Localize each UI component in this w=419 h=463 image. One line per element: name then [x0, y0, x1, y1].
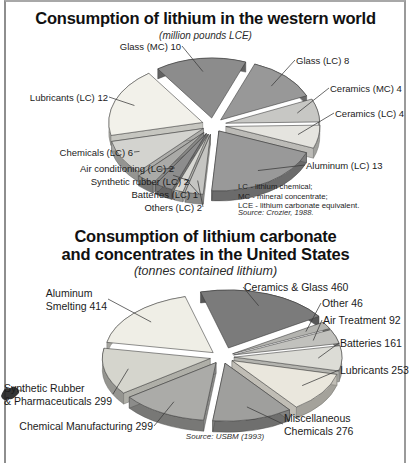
slice-label-synthetic-rubber-pharmaceuticals: Synthetic Rubber& Pharmaceuticals 299: [4, 382, 112, 407]
scanned-figure-page: Consumption of lithium in the western wo…: [0, 0, 419, 463]
slice-label-others-lc: Others (LC) 2: [144, 202, 202, 213]
slice-label-glass-mc: Glass (MC) 10: [120, 41, 181, 52]
slice-label-aluminum-lc: Aluminum (LC) 13: [306, 160, 383, 171]
chart2-title: Consumption of lithium carbonate and con…: [6, 228, 405, 263]
chart2-subtitle: (tonnes contained lithium): [6, 264, 405, 278]
slice-label-batteries-lc: Batteries (LC) 1: [131, 189, 198, 200]
slice-label-aluminum-smelting: AluminumSmelting 414: [46, 287, 107, 312]
slice-label-air-conditioning-lc: Air conditioning (LC) 2: [80, 163, 174, 174]
slice-label-miscellaneous-chemicals: MiscellaneousChemicals 276: [284, 412, 353, 437]
legend-line-lc: LC - lithium chemical;: [238, 182, 359, 192]
slice-label-ceramics-mc: Ceramics (MC) 4: [330, 83, 402, 94]
chart1-source: Source: Crozier, 1988.: [238, 208, 314, 217]
slice-label-lubricants-lc: Lubricants (LC) 12: [30, 92, 108, 103]
slice-label-chemicals-lc: Chemicals (LC) 6: [60, 147, 133, 158]
chart1-title: Consumption of lithium in the western wo…: [6, 9, 405, 28]
chart1-subtitle: (million pounds LCE): [6, 30, 405, 41]
slice-label-air-treatment: Air Treatment 92: [323, 314, 401, 327]
slice-label-ceramics-lc: Ceramics (LC) 4: [335, 108, 404, 119]
slice-label-glass-lc: Glass (LC) 8: [296, 55, 349, 66]
pie-slice-aluminum-smelting: [107, 297, 213, 353]
slice-label-synthetic-rubber-lc: Synthetic rubber (LC) 2: [91, 176, 189, 187]
slice-label-lubricants: Lubricants 253: [340, 364, 409, 377]
slice-label-other: Other 46: [322, 297, 363, 310]
chart2-title-line2: and concentrates in the United States: [6, 246, 405, 264]
abbreviation-legend: LC - lithium chemical; MC - mineral conc…: [238, 182, 359, 211]
slice-label-batteries: Batteries 161: [340, 337, 402, 350]
slice-label-ceramics-glass: Ceramics & Glass 460: [244, 281, 348, 294]
legend-line-mc: MC - mineral concentrate;: [238, 192, 359, 202]
slice-label-chemical-manufacturing: Chemical Manufacturing 299: [19, 420, 153, 433]
chart2-title-line1: Consumption of lithium carbonate: [6, 228, 405, 246]
